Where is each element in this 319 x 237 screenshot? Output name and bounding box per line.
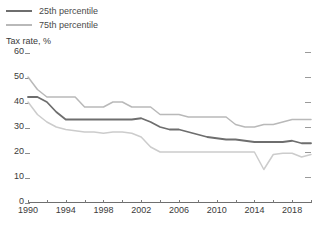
chart-root: 25th percentile 75th percentile Tax rate… xyxy=(0,0,319,237)
series-line-25th-percentile-lower-band xyxy=(28,102,311,170)
series-line-25th-percentile xyxy=(28,97,311,143)
chart-plot-area xyxy=(0,0,319,237)
series-group xyxy=(28,77,311,170)
